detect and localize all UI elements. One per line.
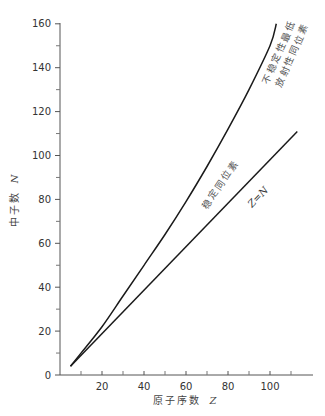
x-axis-title: 原子序数 Z [153, 394, 218, 406]
x-tick-label: 100 [260, 381, 279, 392]
x-ticks: 20406080100 [81, 371, 291, 392]
isotope-stability-chart: 020406080100120140160 20406080100 中子数 N … [0, 0, 325, 416]
y-tick-label: 120 [32, 106, 51, 117]
svg-text:中子数 N: 中子数 N [8, 173, 20, 228]
stable-isotope-curve [71, 24, 277, 366]
y-tick-label: 20 [38, 326, 51, 337]
x-tick-label: 60 [180, 381, 193, 392]
y-axis-title: 中子数 N [8, 173, 20, 228]
y-axis-var: N [9, 173, 20, 185]
annotation-stable-isotopes: 稳定同位素 [200, 157, 241, 211]
y-tick-label: 160 [32, 18, 51, 29]
y-tick-label: 80 [38, 194, 51, 205]
y-tick-label: 100 [32, 150, 51, 161]
x-tick-label: 20 [96, 381, 109, 392]
annotation-z-equals-n: Z=N [245, 184, 271, 211]
z-equals-n-line [71, 131, 298, 366]
x-tick-label: 40 [138, 381, 151, 392]
y-tick-label: 40 [38, 282, 51, 293]
y-tick-label: 0 [45, 370, 51, 381]
x-tick-label: 80 [222, 381, 235, 392]
y-ticks: 020406080100120140160 [32, 18, 60, 380]
y-tick-label: 60 [38, 238, 51, 249]
x-axis-var: Z [209, 395, 219, 406]
x-axis-title-text: 原子序数 [153, 394, 201, 406]
y-axis-title-text: 中子数 [8, 191, 20, 227]
y-tick-label: 140 [32, 62, 51, 73]
